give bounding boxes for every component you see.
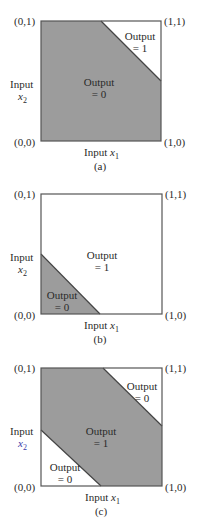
- corner-label-bottom-left: (0,0): [14, 309, 35, 321]
- region-label-output-1: Output= 1: [80, 249, 124, 273]
- corner-label-top-left: (0,1): [14, 362, 35, 374]
- corner-label-top-right: (1,1): [165, 362, 186, 374]
- corner-label-top-right: (1,1): [164, 15, 185, 27]
- caption-b: (b): [88, 333, 112, 345]
- region-label-output-0: Output= 0: [77, 76, 121, 100]
- corner-label-top-right: (1,1): [165, 188, 186, 200]
- corner-label-bottom-left: (0,0): [14, 481, 35, 493]
- caption-c: (c): [89, 505, 113, 517]
- caption-a: (a): [88, 160, 112, 172]
- region-label-output-0: Output= 0: [40, 289, 84, 313]
- region-label-output-0-top: Output= 0: [120, 380, 164, 404]
- corner-label-top-left: (0,1): [14, 15, 35, 27]
- y-axis-label: Input x2: [10, 251, 33, 280]
- corner-label-top-left: (0,1): [14, 188, 35, 200]
- panel-c: (0,1) (1,1) (0,0) (1,0) Output= 0 Output…: [0, 347, 197, 521]
- region-label-output-1: Output= 1: [118, 30, 162, 54]
- y-axis-label: Input x2: [10, 78, 33, 107]
- region-label-output-1: Output= 1: [79, 425, 123, 449]
- panel-a: (0,1) (1,1) (0,0) (1,0) Output= 1 Output…: [0, 0, 197, 170]
- panel-b: (0,1) (1,1) (0,0) (1,0) Output= 1 Output…: [0, 173, 197, 343]
- region-label-output-0-bottom: Output= 0: [43, 461, 87, 485]
- y-axis-label: Input x2: [10, 425, 33, 454]
- corner-label-bottom-left: (0,0): [14, 136, 35, 148]
- corner-label-bottom-right: (1,0): [165, 309, 186, 321]
- corner-label-bottom-right: (1,0): [164, 136, 185, 148]
- corner-label-bottom-right: (1,0): [165, 481, 186, 493]
